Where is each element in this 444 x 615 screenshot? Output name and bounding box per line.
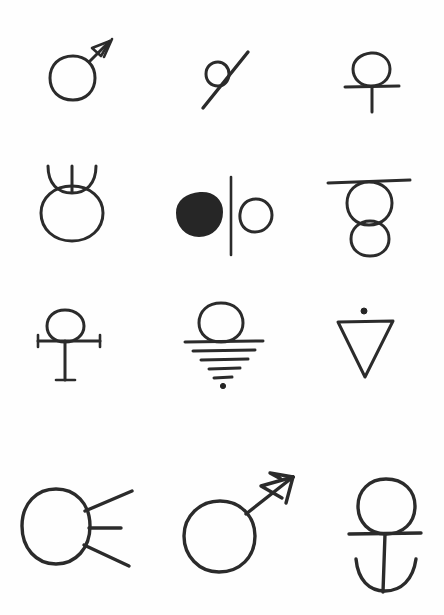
filled-blob [177, 193, 222, 236]
symbol-canvas [0, 0, 444, 615]
symbol-sheet: mars-symbol-small circle-with-diagonal-s… [0, 0, 444, 615]
triangle-dot [361, 308, 367, 314]
taper-line-1 [185, 341, 263, 342]
taper-line-5 [214, 377, 232, 378]
taper-terminal-dot [220, 383, 225, 388]
taper-line-3 [201, 359, 248, 360]
taper-line-2 [193, 350, 255, 351]
anchor-stem [383, 534, 385, 592]
paper-background [0, 0, 444, 615]
taper-line-4 [209, 368, 240, 369]
